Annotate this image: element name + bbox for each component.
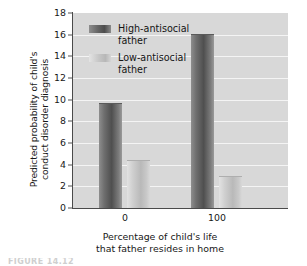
bar-low-antisocial-0 <box>127 160 150 208</box>
x-axis-label-line1: Percentage of child's life <box>103 231 218 242</box>
bar-high-antisocial-100 <box>191 34 214 208</box>
y-tick-8: 8 <box>46 117 66 126</box>
bar-low-antisocial-100 <box>219 176 242 208</box>
legend-label-high-line2: father <box>118 35 189 47</box>
legend-swatch-low-antisocial-icon <box>89 54 111 62</box>
legend-label-low-antisocial: Low-antisocial father <box>118 52 186 75</box>
x-axis-label-line2: that father resides in home <box>40 243 280 255</box>
y-tick-18: 18 <box>46 8 66 17</box>
y-tick-16: 16 <box>46 30 66 39</box>
y-tick-10: 10 <box>46 95 66 104</box>
legend-item-low-antisocial: Low-antisocial father <box>89 52 189 75</box>
legend-label-low-line1: Low-antisocial <box>118 52 186 63</box>
x-tick-100: 100 <box>208 213 226 223</box>
y-axis-label-line1: Predicted probability of child's <box>28 52 39 188</box>
legend-label-low-line2: father <box>118 64 186 76</box>
legend-label-high-antisocial: High-antisocial father <box>118 23 189 46</box>
x-tick-0: 0 <box>122 213 128 223</box>
y-tick-0: 0 <box>46 203 66 212</box>
plot-area: High-antisocial father Low-antisocial fa… <box>73 13 288 208</box>
legend-swatch-high-antisocial-icon <box>89 25 111 33</box>
x-axis-label: Percentage of child's life that father r… <box>40 231 280 254</box>
bar-high-antisocial-0 <box>99 103 122 208</box>
y-tick-6: 6 <box>46 138 66 147</box>
legend-item-high-antisocial: High-antisocial father <box>89 23 189 46</box>
y-tick-12: 12 <box>46 73 66 82</box>
y-tick-4: 4 <box>46 160 66 169</box>
y-tick-14: 14 <box>46 52 66 61</box>
gridline-10 <box>73 100 288 101</box>
figure-bar-chart: Predicted probability of child's conduct… <box>0 0 307 266</box>
y-axis-ticks: 18 16 14 12 10 8 6 4 2 0 <box>46 13 66 208</box>
x-axis-line <box>72 208 288 209</box>
figure-caption: FIGURE 14.12 <box>8 258 74 266</box>
legend-label-high-line1: High-antisocial <box>118 23 189 34</box>
legend: High-antisocial father Low-antisocial fa… <box>89 23 189 81</box>
y-axis-line <box>72 12 73 209</box>
y-tick-2: 2 <box>46 182 66 191</box>
